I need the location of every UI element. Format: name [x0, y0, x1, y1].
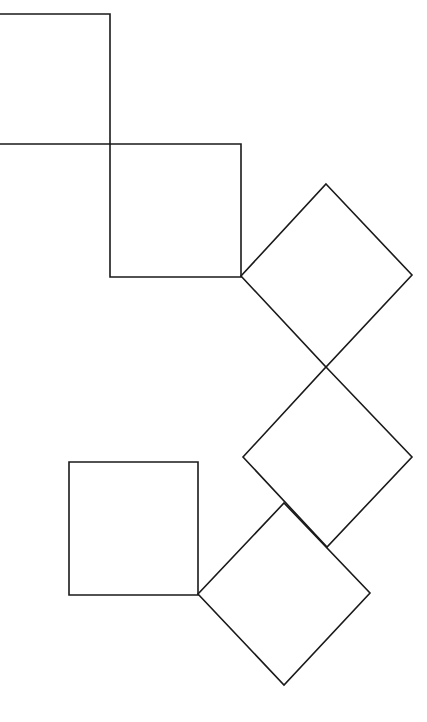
diamond-upper-right	[241, 184, 412, 367]
diamond-bottom	[198, 503, 370, 685]
diagram-canvas	[0, 0, 427, 722]
square-top-left	[0, 14, 110, 144]
square-upper-middle	[110, 144, 241, 277]
square-bottom-left	[69, 462, 198, 595]
